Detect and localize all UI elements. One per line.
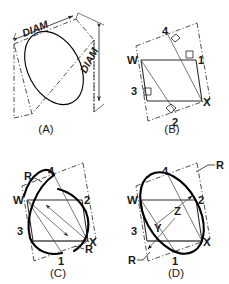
panel-c-label-3: 3: [17, 225, 23, 237]
panel-c-radius-lines: [27, 175, 88, 253]
panel-d-ellipse: [127, 161, 217, 264]
panel-d-label-x: X: [203, 236, 211, 248]
panel-c: W X 2 1 3 4 R R (C): [13, 163, 97, 279]
panel-d-radius-lines: [141, 175, 202, 253]
panel-d-label-r-upper: R: [216, 159, 224, 171]
panel-c-label-w: W: [13, 194, 24, 206]
panel-c-label-2: 2: [84, 194, 90, 206]
figure-svg: DIAM DIAM (A): [0, 0, 229, 284]
panel-d-caption: (D): [168, 267, 184, 279]
panel-c-label-r-upper: R: [24, 170, 32, 182]
panel-c-label-4: 4: [48, 165, 55, 177]
panel-c-label-1: 1: [58, 255, 64, 267]
figure-root: DIAM DIAM (A): [0, 0, 229, 284]
panel-b: W X 1 2 3 4 (B): [127, 23, 211, 135]
panel-d-label-1: 1: [172, 255, 178, 267]
panel-d-label-4: 4: [162, 165, 169, 177]
panel-d-label-2: 2: [198, 194, 204, 206]
panel-b-label-w: W: [127, 54, 138, 66]
panel-d-label-3: 3: [131, 225, 137, 237]
panel-b-iso-square: [136, 23, 210, 121]
panel-b-caption: (B): [164, 123, 180, 135]
panel-d-label-r-lower: R: [128, 254, 136, 266]
panel-b-label-4: 4: [162, 25, 169, 37]
panel-a-diam-right-label: DIAM: [77, 45, 100, 75]
panel-b-label-1: 1: [198, 54, 204, 66]
panel-d-label-w: W: [127, 194, 138, 206]
panel-d-label-y: Y: [154, 222, 162, 234]
panel-b-label-3: 3: [131, 85, 137, 97]
panel-c-caption: (C): [50, 267, 66, 279]
panel-b-label-x: X: [203, 96, 211, 108]
panel-a: DIAM DIAM (A): [13, 13, 104, 135]
panel-d: W X 2 1 3 4 Z Y R R (D): [127, 159, 224, 279]
panel-d-label-z: Z: [174, 205, 181, 217]
panel-a-caption: (A): [38, 123, 54, 135]
panel-c-label-r-lower: R: [85, 243, 93, 255]
